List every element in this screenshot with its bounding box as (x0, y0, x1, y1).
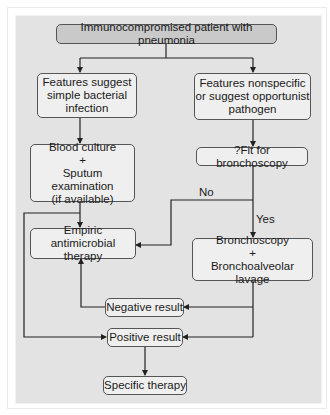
node-text: Sputum examination (31, 167, 134, 193)
node-simple-bacterial-infection: Features suggest simple bacterial infect… (37, 73, 137, 118)
node-blood-culture-sputum: Blood culture + Sputum examination (if a… (30, 144, 135, 202)
node-text: Bronchoalveolar lavage (193, 260, 312, 286)
node-text: Negative result (106, 301, 183, 314)
node-empiric-antimicrobial-therapy: Empiric antimicrobial therapy (30, 228, 136, 259)
node-text: infection (66, 102, 109, 115)
node-text: Blood culture (49, 141, 116, 154)
node-text: Specific therapy (104, 379, 186, 392)
node-text: or suggest opportunist (196, 90, 310, 103)
node-text: simple bacterial (47, 89, 127, 102)
node-text: ?Fit for bronchoscopy (197, 144, 307, 170)
node-text: pathogen (229, 103, 277, 116)
node-text: Features suggest (43, 76, 132, 89)
node-text: + (79, 154, 86, 167)
node-text: Features nonspecific (199, 77, 305, 90)
node-fit-for-bronchoscopy: ?Fit for bronchoscopy (196, 147, 308, 166)
connector-lines (0, 0, 330, 415)
node-text: Bronchoscopy (216, 234, 289, 247)
node-text: Immunocompromised patient with pneumonia (57, 21, 276, 47)
node-immunocompromised-patient: Immunocompromised patient with pneumonia (56, 24, 277, 44)
node-text: Empiric antimicrobial (31, 224, 135, 250)
node-negative-result: Negative result (105, 298, 184, 317)
node-text: Positive result (109, 331, 181, 344)
node-nonspecific-opportunist: Features nonspecific or suggest opportun… (194, 73, 311, 120)
node-text: (if available) (52, 193, 114, 206)
node-specific-therapy: Specific therapy (103, 376, 187, 395)
node-text: therapy (64, 250, 102, 263)
edge-label-no: No (199, 186, 214, 198)
edge-label-yes: Yes (256, 213, 275, 225)
node-text: + (249, 247, 256, 260)
node-positive-result: Positive result (107, 328, 183, 347)
node-bronchoscopy-lavage: Bronchoscopy + Bronchoalveolar lavage (192, 238, 313, 281)
